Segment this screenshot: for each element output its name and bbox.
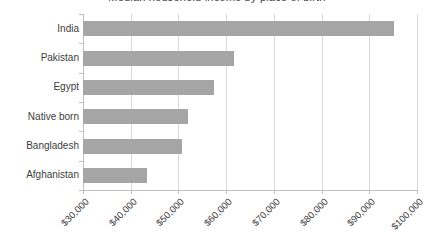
gridline xyxy=(226,14,227,190)
gridline xyxy=(178,14,179,190)
y-axis-label: Pakistan xyxy=(0,52,79,63)
bar[interactable] xyxy=(83,168,147,183)
x-axis-line xyxy=(83,190,417,191)
y-axis-tick xyxy=(79,131,83,132)
gridline xyxy=(369,14,370,190)
x-axis-tick xyxy=(322,190,323,194)
x-axis-tick xyxy=(178,190,179,194)
chart-title: Median household income by place of birt… xyxy=(0,0,434,3)
y-axis-label: Egypt xyxy=(0,81,79,92)
gridline xyxy=(274,14,275,190)
x-axis-label: $30,000 xyxy=(12,196,90,243)
x-axis-tick xyxy=(274,190,275,194)
bar-chart: Median household income by place of birt… xyxy=(0,0,434,243)
x-axis-tick xyxy=(226,190,227,194)
y-axis-tick xyxy=(79,43,83,44)
bar[interactable] xyxy=(83,139,182,154)
gridline xyxy=(417,14,418,190)
bar[interactable] xyxy=(83,80,214,95)
x-axis-tick xyxy=(83,190,84,194)
x-axis-tick xyxy=(417,190,418,194)
y-axis-tick xyxy=(79,14,83,15)
y-axis-tick xyxy=(79,161,83,162)
bar[interactable] xyxy=(83,109,188,124)
x-axis-tick xyxy=(131,190,132,194)
plot-area xyxy=(83,14,417,190)
gridline xyxy=(131,14,132,190)
y-axis-label: Native born xyxy=(0,111,79,122)
y-axis-label: Afghanistan xyxy=(0,169,79,180)
y-axis-labels: IndiaPakistanEgyptNative bornBangladeshA… xyxy=(0,14,79,190)
y-axis-tick xyxy=(79,73,83,74)
y-axis-label: Bangladesh xyxy=(0,140,79,151)
x-axis-tick xyxy=(369,190,370,194)
gridline xyxy=(322,14,323,190)
bar[interactable] xyxy=(83,21,394,36)
y-axis-label: India xyxy=(0,23,79,34)
y-axis-tick xyxy=(79,102,83,103)
bar[interactable] xyxy=(83,51,234,66)
